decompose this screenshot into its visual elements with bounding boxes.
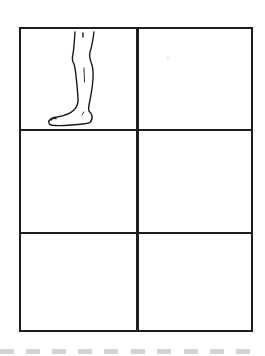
footer-dash — [26, 349, 40, 354]
drawing-grid — [19, 27, 253, 332]
grid-cell-r1-c2 — [138, 29, 253, 128]
footer-dash — [210, 349, 224, 354]
footer-dash — [184, 349, 198, 354]
footer-dash — [104, 349, 118, 354]
footer-dash — [131, 349, 145, 354]
grid-cell-r1-c1 — [21, 29, 136, 128]
grid-cell-r2-c1 — [21, 131, 136, 231]
grid-cell-r2-c2 — [138, 131, 253, 231]
footer-dashed-line — [0, 349, 265, 355]
grid-cell-r3-c2 — [138, 234, 253, 330]
footer-dash — [52, 349, 66, 354]
footer-dash — [0, 349, 14, 354]
grid-cell-r3-c1 — [21, 234, 136, 330]
worksheet-page — [0, 0, 265, 356]
footer-dash — [78, 349, 92, 354]
footer-dash — [157, 349, 171, 354]
footer-dash — [236, 349, 250, 354]
